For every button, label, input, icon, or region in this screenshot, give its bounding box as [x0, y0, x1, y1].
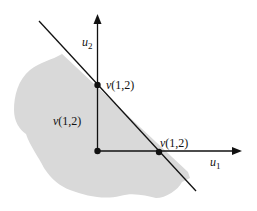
u2-intercept-point: [94, 82, 100, 88]
origin-point: [94, 148, 100, 154]
u2-arrow-icon: [94, 14, 102, 24]
utility-possibility-diagram: u2 u1 v(1,2) v(1,2) v(1,2): [0, 0, 257, 211]
u2-intercept-label: v(1,2): [106, 78, 134, 92]
region-label: v(1,2): [53, 114, 81, 128]
feasible-region: [14, 52, 190, 198]
u1-axis-label: u1: [210, 155, 221, 171]
u1-arrow-icon: [232, 147, 242, 155]
u1-intercept-label: v(1,2): [160, 136, 188, 150]
u2-axis-label: u2: [82, 35, 93, 51]
